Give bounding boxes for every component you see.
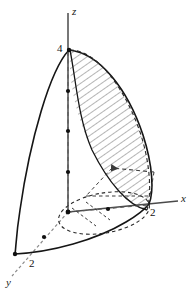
- apex-dot: [67, 48, 71, 52]
- y-axis-line: [12, 212, 68, 276]
- x-axis-label: x: [181, 193, 186, 204]
- paraboloid-front-silhouette: [15, 204, 149, 254]
- sample-point-dot: [66, 89, 70, 93]
- z-axis-label: z: [72, 6, 76, 17]
- sample-point-dot: [66, 170, 70, 174]
- hatched-cross-section-group: [0, 0, 192, 294]
- sample-point-dot: [66, 129, 70, 133]
- hatch-fill: [0, 0, 192, 294]
- sample-point-dot: [42, 235, 46, 239]
- x-intercept-tick-label: 2: [150, 207, 156, 218]
- slab-strip-back: [86, 202, 110, 220]
- figure-root: z x y 4 2 2: [0, 0, 192, 294]
- sample-point-dot: [106, 207, 110, 211]
- paraboloid-left-silhouette: [15, 50, 69, 254]
- y-intercept-dot: [13, 252, 17, 256]
- z-intercept-tick-label: 4: [57, 43, 63, 54]
- y-intercept-tick-label: 2: [29, 258, 35, 269]
- paraboloid-diagram-svg: [0, 0, 192, 294]
- y-axis-label: y: [6, 277, 11, 288]
- sample-point-dot: [66, 210, 71, 215]
